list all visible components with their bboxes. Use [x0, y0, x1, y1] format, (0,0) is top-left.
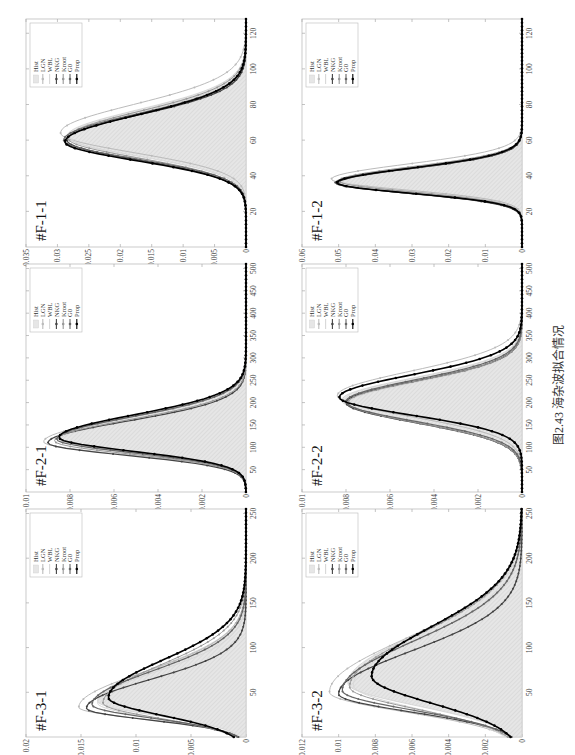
marker: [245, 33, 248, 36]
marker: [170, 105, 173, 108]
marker: [498, 350, 501, 353]
marker: [500, 588, 502, 590]
marker: [244, 362, 247, 365]
marker: [423, 629, 426, 632]
marker: [184, 668, 186, 670]
marker: [518, 212, 521, 215]
marker: [521, 33, 524, 36]
marker: [478, 358, 481, 361]
marker: [411, 162, 413, 164]
marker: [446, 717, 448, 719]
marker: [112, 453, 114, 455]
marker: [521, 483, 524, 486]
marker: [223, 630, 225, 632]
marker: [518, 339, 520, 341]
marker: [434, 713, 436, 715]
marker: [349, 675, 351, 677]
marker: [521, 472, 524, 475]
marker: [521, 301, 524, 304]
marker: [415, 415, 418, 418]
marker: [123, 687, 125, 689]
marker: [519, 523, 522, 526]
marker: [520, 546, 522, 548]
marker: [97, 694, 99, 696]
marker: [239, 71, 242, 74]
marker: [360, 694, 362, 696]
marker: [167, 411, 169, 413]
marker: [443, 626, 445, 628]
marker: [515, 550, 518, 553]
marker: [477, 607, 479, 609]
marker: [129, 453, 131, 455]
marker: [352, 675, 354, 677]
marker: [429, 702, 432, 705]
marker: [521, 71, 524, 74]
marker: [504, 599, 506, 601]
marker: [244, 204, 247, 207]
marker: [503, 584, 505, 586]
marker: [520, 550, 522, 552]
x-tick-label: 50: [525, 688, 534, 696]
marker: [238, 385, 240, 387]
marker: [234, 185, 237, 188]
marker: [454, 196, 457, 199]
marker: [513, 441, 516, 444]
marker: [195, 664, 197, 666]
marker: [521, 278, 524, 281]
marker: [409, 637, 412, 640]
marker: [503, 204, 506, 207]
marker: [494, 584, 497, 587]
marker: [417, 166, 420, 169]
marker: [510, 147, 513, 150]
marker: [242, 48, 244, 50]
marker: [385, 660, 387, 662]
marker: [245, 18, 248, 21]
marker: [245, 22, 248, 25]
marker: [521, 29, 524, 32]
marker: [242, 607, 244, 609]
marker: [143, 109, 145, 111]
marker: [55, 442, 57, 444]
marker: [244, 595, 246, 597]
marker: [243, 369, 246, 372]
marker: [189, 721, 192, 724]
marker: [391, 189, 393, 191]
marker: [245, 534, 248, 537]
plot-area: 00.0020.0040.0060.0080.01501001502002503…: [298, 263, 535, 511]
marker: [139, 159, 141, 161]
panel-F-1-2: 00.010.020.030.040.050.0620406080100120#…: [280, 15, 542, 251]
marker: [342, 687, 344, 689]
marker: [238, 611, 240, 613]
marker: [74, 147, 77, 150]
marker: [231, 83, 233, 85]
marker: [361, 384, 364, 387]
marker: [234, 641, 236, 643]
marker: [245, 550, 248, 553]
marker: [84, 117, 86, 119]
marker: [191, 170, 194, 173]
panel-title: #F-2-2: [309, 445, 325, 486]
marker: [353, 671, 355, 673]
x-tick-label: 400: [249, 307, 258, 319]
marker: [212, 400, 214, 402]
marker: [228, 82, 231, 85]
panel-F-2-1: 00.0020.0040.0060.0080.01501001502002503…: [4, 260, 266, 496]
marker: [193, 86, 195, 88]
marker: [64, 136, 66, 138]
marker: [245, 37, 248, 40]
marker: [416, 633, 419, 636]
marker: [220, 464, 223, 467]
marker: [88, 151, 91, 154]
marker: [474, 354, 476, 356]
x-tick-label: 250: [525, 374, 534, 386]
marker: [245, 350, 248, 353]
marker: [213, 656, 215, 658]
marker: [233, 75, 235, 77]
marker: [105, 151, 107, 153]
marker: [466, 713, 469, 716]
marker: [444, 618, 447, 621]
legend-label: Prop: [73, 550, 80, 562]
marker: [78, 128, 80, 130]
marker: [458, 369, 460, 371]
marker: [479, 430, 481, 432]
